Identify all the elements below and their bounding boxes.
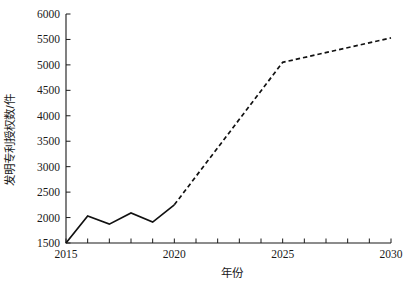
y-axis-title: 发明专利授权数/件 [3, 94, 16, 185]
x-axis-title: 年份 [221, 266, 244, 279]
x-tick-label: 2025 [271, 248, 294, 260]
y-tick-label: 2000 [37, 212, 60, 224]
y-tick-label: 4000 [37, 110, 60, 122]
plot-background [0, 0, 411, 284]
y-tick-label: 4500 [37, 84, 60, 96]
y-axis-title-group: 发明专利授权数/件 [3, 94, 16, 185]
y-tick-label: 3500 [37, 135, 60, 147]
x-tick-label: 2030 [380, 248, 403, 260]
line-chart: 1500200025003000350040004500500055006000… [0, 0, 411, 284]
y-tick-label: 2500 [37, 186, 60, 198]
y-tick-label: 6000 [37, 8, 60, 20]
x-tick-label: 2015 [55, 248, 78, 260]
x-axis-title-group: 年份 [221, 266, 244, 279]
y-tick-label: 3000 [37, 161, 60, 173]
x-tick-label: 2020 [163, 248, 186, 260]
y-tick-label: 5500 [37, 33, 60, 45]
y-tick-label: 5000 [37, 59, 60, 71]
chart-container: 1500200025003000350040004500500055006000… [0, 0, 411, 284]
